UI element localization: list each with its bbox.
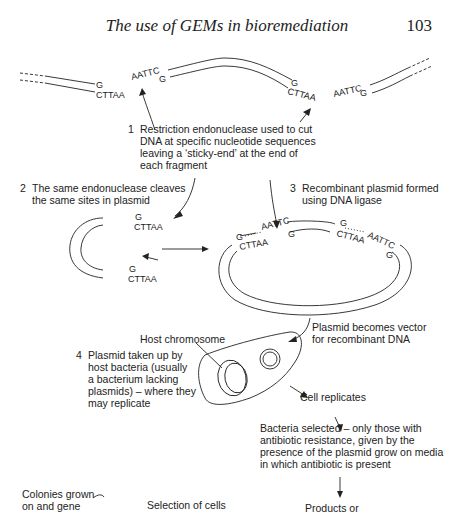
seq-cttaa: CTTAA [128, 274, 157, 284]
seq-cttaa: CTTAA [287, 86, 317, 103]
step-3-label: 3Recombinant plasmid formed [290, 182, 439, 194]
seq-g: G [135, 212, 142, 222]
seq-aattc: AATTC [366, 230, 397, 251]
seq-g: G [340, 218, 347, 228]
seq-g: G [288, 229, 295, 239]
step-2-line: the same sites in plasmid [20, 194, 150, 206]
seq-g: G [236, 232, 243, 242]
seq-aattc: AATTC [260, 215, 291, 232]
step-4-line: may replicate [76, 397, 150, 409]
host-chromosome-label: Host chromosome [140, 333, 225, 345]
step-4-line: host bacteria (usually [76, 361, 187, 373]
colonies-label: on and gene [22, 500, 80, 512]
products-label: Products or [305, 502, 359, 514]
seq-aattc: AATTC [332, 83, 363, 99]
step-3-line: using DNA ligase [290, 194, 382, 206]
seq-cttaa: CTTAA [335, 228, 365, 245]
bacteria-selected-label: presence of the plasmid grow on media [260, 446, 443, 458]
seq-cttaa: CTTAA [239, 237, 269, 252]
seq-cttaa: CTTAA [134, 222, 163, 232]
bacteria-selected-label: antibiotic resistance, given by the [260, 434, 415, 446]
plasmid-vector-label: Plasmid becomes vector [312, 321, 426, 333]
step-1-line: leaving a ‘sticky-end’ at the end of [128, 147, 298, 159]
bacteria-selected-label: Bacteria selected – only those with [260, 422, 422, 434]
seq-g: G [129, 264, 136, 274]
seq-aattc: AATTC [130, 65, 161, 82]
step-1-line: DNA at specific nucleotide sequences [128, 135, 316, 147]
bacteria-selected-label: in which antibiotic is present [260, 458, 391, 470]
step-4-label: 4Plasmid taken up by [76, 349, 183, 361]
seq-g: G [159, 74, 166, 84]
seq-g: G [386, 250, 393, 260]
plasmid-vector-label: for recombinant DNA [312, 333, 410, 345]
seq-g: G [360, 88, 367, 98]
step-4-line: a bacterium lacking [76, 373, 178, 385]
step-4-line: plasmids) – where they [76, 385, 196, 397]
step-1-label: 1Restriction endonuclease used to cut [128, 123, 312, 135]
cell-replicates-label: Cell replicates [300, 391, 366, 403]
seq-g: G [96, 80, 103, 90]
seq-cttaa: CTTAA [96, 90, 125, 100]
selection-label: Selection of cells [147, 499, 226, 511]
colonies-label: Colonies grown [22, 488, 94, 500]
step-1-line: each fragment [128, 159, 207, 171]
step-2-label: 2The same endonuclease cleaves [20, 182, 186, 194]
